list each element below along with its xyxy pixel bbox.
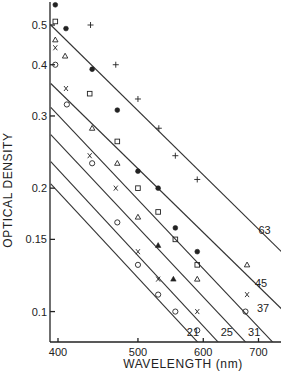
cross-marker [64, 86, 68, 91]
filled-circle-marker [195, 249, 200, 254]
fit-line-37 [51, 107, 281, 356]
optical-density-chart: 0.10.150.20.30.40.5400500600700 63453731… [0, 0, 281, 378]
plus-marker [135, 96, 141, 102]
line-label-63: 63 [259, 224, 271, 236]
plus-marker [88, 22, 94, 28]
line-label-25: 25 [221, 326, 233, 338]
line-label-37: 37 [257, 302, 269, 314]
plus-marker [172, 153, 178, 159]
filled-circle-marker [156, 186, 161, 191]
y-tick-label: 0.4 [32, 59, 47, 71]
filled-circle-marker [173, 225, 178, 230]
plus-marker [113, 62, 119, 68]
line-label-21: 21 [187, 326, 199, 338]
filled-triangle-marker [155, 243, 160, 248]
filled-triangle-marker [171, 276, 176, 281]
y-tick-label: 0.3 [32, 110, 47, 122]
open-circle-marker [173, 309, 178, 314]
fit-line-31 [51, 135, 259, 356]
cross-marker [88, 153, 92, 158]
line-label-45: 45 [255, 277, 267, 289]
fit-line-63 [51, 25, 281, 258]
square-marker [115, 139, 120, 144]
open-circle-marker [156, 292, 161, 297]
filled-circle-marker [64, 26, 69, 31]
triangle-marker [62, 53, 67, 58]
plus-marker [194, 176, 200, 182]
triangle-marker [115, 160, 120, 165]
triangle-marker [195, 276, 200, 281]
cross-marker [114, 186, 118, 191]
square-marker [156, 210, 161, 215]
open-circle-marker [90, 161, 95, 166]
cross-marker [136, 249, 140, 254]
x-axis-title: WAVELENGTH (nm) [123, 357, 243, 371]
y-tick-label: 0.5 [32, 19, 47, 31]
cross-marker [195, 309, 199, 314]
square-marker [87, 91, 92, 96]
cross-marker [245, 292, 249, 297]
triangle-marker [135, 214, 140, 219]
filled-circle-marker [136, 169, 141, 174]
y-tick-label: 0.2 [32, 182, 47, 194]
filled-circle-marker [90, 67, 95, 72]
triangle-marker [53, 37, 58, 42]
filled-circle-marker [53, 2, 58, 7]
triangle-marker [244, 262, 249, 267]
y-axis-title: OPTICAL DENSITY [1, 132, 15, 247]
plus-marker [156, 125, 162, 131]
line-label-31: 31 [248, 326, 260, 338]
x-tick-label: 400 [49, 346, 67, 358]
x-tick-label: 700 [249, 346, 267, 358]
y-tick-label: 0.1 [32, 306, 47, 318]
open-circle-marker [115, 220, 120, 225]
open-circle-marker [64, 102, 69, 107]
open-circle-marker [135, 262, 140, 267]
fit-line-25 [51, 162, 231, 356]
filled-circle-marker [115, 108, 120, 113]
cross-marker [53, 45, 57, 50]
y-tick-label: 0.15 [26, 233, 47, 245]
fit-lines [51, 25, 281, 356]
square-marker [136, 186, 141, 191]
square-marker [53, 19, 58, 24]
